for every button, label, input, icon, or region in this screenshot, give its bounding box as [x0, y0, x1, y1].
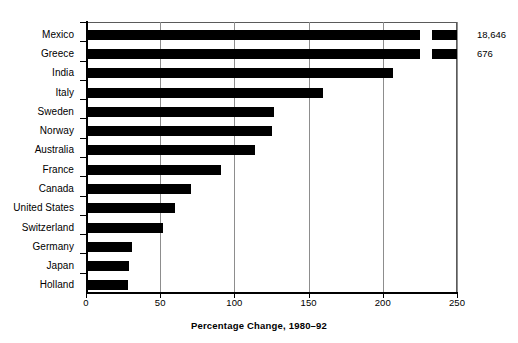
gridline-150 — [309, 22, 310, 292]
y-axis-line — [86, 21, 88, 294]
y-tick-10 — [80, 215, 86, 216]
x-tick-label-250: 250 — [437, 297, 477, 308]
x-tick-label-150: 150 — [289, 297, 329, 308]
y-tick-12 — [80, 253, 86, 254]
gridline-100 — [234, 22, 235, 292]
bar-canada — [86, 184, 191, 194]
y-axis-label-switzerland: Switzerland — [22, 223, 74, 233]
y-tick-3 — [80, 80, 86, 81]
x-tick-label-200: 200 — [363, 297, 403, 308]
y-tick-9 — [80, 196, 86, 197]
gridline-50 — [160, 22, 161, 292]
y-axis-label-greece: Greece — [41, 49, 74, 59]
y-tick-7 — [80, 157, 86, 158]
y-axis-label-italy: Italy — [55, 88, 74, 98]
bar-mexico — [86, 30, 420, 40]
value-label-mexico: 18,646 — [477, 30, 506, 40]
x-tick-label-0: 0 — [66, 297, 106, 308]
y-tick-2 — [80, 61, 86, 62]
y-tick-6 — [80, 138, 86, 139]
bar-germany — [86, 242, 132, 252]
bar-holland — [86, 280, 128, 290]
y-axis-label-france: France — [43, 165, 74, 175]
bar-australia — [86, 145, 255, 155]
bar-mexico-overflow-segment — [432, 30, 457, 40]
y-axis-label-canada: Canada — [39, 184, 74, 194]
plot-frame — [86, 22, 457, 293]
gridline-200 — [383, 22, 384, 292]
y-tick-5 — [80, 118, 86, 119]
value-label-greece: 676 — [477, 49, 493, 59]
y-axis-label-japan: Japan — [47, 261, 75, 271]
bar-greece — [86, 49, 420, 59]
bar-united-states — [86, 203, 175, 213]
y-axis-label-holland: Holland — [40, 280, 74, 290]
bar-japan — [86, 261, 129, 271]
x-axis-title: Percentage Change, 1980–92 — [0, 320, 518, 331]
y-axis-label-india: India — [52, 68, 74, 78]
x-tick-label-50: 50 — [140, 297, 180, 308]
bar-greece-overflow-segment — [432, 49, 457, 59]
y-axis-label-norway: Norway — [40, 126, 74, 136]
y-tick-4 — [80, 99, 86, 100]
bar-france — [86, 165, 221, 175]
bar-norway — [86, 126, 272, 136]
y-tick-8 — [80, 176, 86, 177]
gridline-250 — [457, 22, 458, 292]
y-tick-0 — [80, 22, 86, 23]
y-axis-label-sweden: Sweden — [38, 107, 74, 117]
bar-switzerland — [86, 223, 163, 233]
bar-india — [86, 68, 393, 78]
y-axis-label-germany: Germany — [33, 242, 74, 252]
bar-italy — [86, 88, 323, 98]
y-axis-label-australia: Australia — [35, 145, 74, 155]
bar-chart: 050100150200250 MexicoGreeceIndiaItalySw… — [0, 0, 518, 343]
y-axis-label-mexico: Mexico — [42, 30, 74, 40]
x-axis-line — [86, 292, 458, 294]
bar-sweden — [86, 107, 274, 117]
y-tick-11 — [80, 234, 86, 235]
y-axis-label-united-states: United States — [13, 203, 74, 213]
y-tick-13 — [80, 273, 86, 274]
y-tick-1 — [80, 41, 86, 42]
x-tick-label-100: 100 — [214, 297, 254, 308]
